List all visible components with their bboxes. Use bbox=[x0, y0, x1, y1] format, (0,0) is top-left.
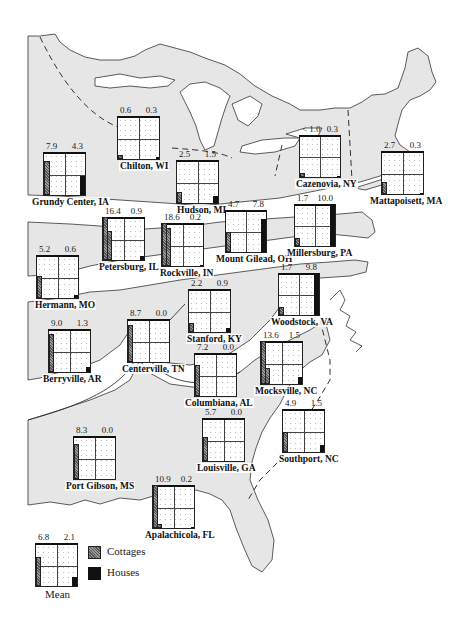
house-bar bbox=[191, 527, 194, 528]
station-label: Southport, NC bbox=[278, 454, 340, 464]
cottage-bar bbox=[295, 238, 300, 246]
station-label: Port Gibson, MS bbox=[65, 481, 135, 491]
house-value: 0.0 bbox=[102, 425, 113, 435]
cottage-value: 8.7 bbox=[130, 308, 141, 318]
house-bar bbox=[314, 273, 319, 315]
house-bar bbox=[330, 204, 335, 246]
cottage-value: 0.6 bbox=[120, 105, 131, 115]
cottage-value: 10.9 bbox=[155, 474, 171, 484]
station-label: Columbiana, AL bbox=[184, 398, 254, 408]
cottage-bar bbox=[177, 192, 182, 203]
house-bar bbox=[86, 367, 90, 372]
house-value: 9.8 bbox=[306, 262, 317, 272]
cottage-bar bbox=[203, 437, 208, 461]
house-value: 1.5 bbox=[205, 149, 216, 159]
house-value: 1.3 bbox=[77, 318, 88, 328]
house-value: 0.3 bbox=[146, 105, 157, 115]
house-value: 7.8 bbox=[253, 199, 264, 209]
cottage-value: 7.2 bbox=[197, 342, 208, 352]
house-value: 0.6 bbox=[65, 244, 76, 254]
cottage-bar bbox=[74, 444, 79, 479]
chart-box: 8.7 0.0 bbox=[127, 320, 170, 363]
station-label: Millersburg, PA bbox=[286, 248, 353, 258]
chart-box: 1.7 10.0 bbox=[294, 205, 336, 247]
station-label: Hermann, MO bbox=[34, 300, 96, 310]
chart-box: 6.8 2.1 bbox=[35, 544, 78, 587]
station-label: Chilton, WI bbox=[119, 161, 169, 171]
cottage-bar bbox=[36, 557, 41, 586]
station-label: Centerville, TN bbox=[121, 364, 186, 374]
cottage-value: 5.7 bbox=[205, 407, 216, 417]
house-value: 4.3 bbox=[72, 141, 83, 151]
station-label: Apalachicola, FL bbox=[144, 530, 216, 540]
cottage-value: 2.2 bbox=[191, 278, 202, 288]
house-bar bbox=[420, 193, 423, 194]
station-label: Mocksville, NC bbox=[254, 386, 318, 396]
cottage-bar bbox=[37, 276, 42, 298]
cottage-bar bbox=[118, 155, 123, 159]
mean-label: Mean bbox=[45, 588, 70, 600]
cottage-value: 2.5 bbox=[179, 149, 190, 159]
chart-box: 4.9 1.5 bbox=[282, 410, 325, 453]
cottage-bar bbox=[153, 485, 158, 528]
cottage-value: < 1.0 bbox=[302, 124, 321, 134]
cottage-bar-overflow bbox=[107, 231, 112, 260]
chart-box: 2.2 0.9 bbox=[188, 290, 231, 333]
station-label: Hudson, MI bbox=[176, 205, 227, 215]
cottage-bar bbox=[128, 325, 133, 362]
house-value: 10.0 bbox=[317, 193, 333, 203]
cottage-bar bbox=[279, 307, 284, 315]
chart-box: 13.6 1.5 bbox=[260, 342, 303, 385]
station-label: Mattapoisett, MA bbox=[369, 196, 443, 206]
cottage-value: 7.9 bbox=[46, 141, 57, 151]
cottages-swatch-icon bbox=[88, 546, 101, 559]
cottage-bar bbox=[226, 232, 231, 252]
station-label: Rockville, IN bbox=[159, 268, 214, 278]
cottage-bar bbox=[382, 182, 387, 194]
house-bar bbox=[72, 577, 77, 586]
house-value: 0.2 bbox=[181, 474, 192, 484]
mean-house-value: 2.1 bbox=[64, 532, 75, 542]
house-value: 0.3 bbox=[410, 140, 421, 150]
cottage-bar-overflow bbox=[166, 228, 171, 266]
cottage-value: 16.4 bbox=[105, 206, 121, 216]
cottage-value: 1.7 bbox=[297, 193, 308, 203]
houses-legend-label: Houses bbox=[107, 566, 139, 578]
house-value: 0.3 bbox=[327, 124, 338, 134]
house-bar bbox=[226, 328, 230, 332]
cottage-value: 13.6 bbox=[263, 330, 279, 340]
chart-box: 5.7 0.0 bbox=[202, 419, 245, 462]
chart-box: 7.9 4.3 bbox=[43, 153, 86, 196]
house-bar bbox=[337, 176, 340, 177]
house-value: 0.9 bbox=[217, 278, 228, 288]
cottage-value: 4.7 bbox=[228, 199, 239, 209]
cottage-value: 8.3 bbox=[76, 425, 87, 435]
cottage-value: 9.0 bbox=[51, 318, 62, 328]
cottage-bar bbox=[49, 334, 54, 372]
chart-box: 7.2 0.0 bbox=[194, 354, 237, 397]
station-label: Stanford, KY bbox=[186, 334, 243, 344]
house-value: 0.0 bbox=[223, 342, 234, 352]
cottage-bar-overflow bbox=[157, 524, 162, 528]
cottages-legend-label: Cottages bbox=[107, 545, 146, 557]
chart-box: 0.6 0.3 bbox=[117, 117, 160, 160]
chart-box: < 1.0 0.3 bbox=[299, 136, 341, 178]
station-label: Grundy Center, IA bbox=[31, 197, 110, 207]
house-value: 0.0 bbox=[231, 407, 242, 417]
house-value: 1.5 bbox=[289, 330, 300, 340]
chart-box: 2.7 0.3 bbox=[381, 152, 424, 195]
cottage-bar bbox=[189, 323, 194, 332]
cottage-value: 5.2 bbox=[39, 244, 50, 254]
station-label: Louisville, GA bbox=[196, 463, 257, 473]
chart-box: 4.7 7.8 bbox=[225, 211, 267, 253]
cottage-bar bbox=[44, 161, 50, 195]
chart-box: 9.0 1.3 bbox=[48, 330, 91, 373]
houses-swatch-icon bbox=[88, 567, 101, 580]
station-label: Woodstock, VA bbox=[270, 317, 334, 327]
house-bar bbox=[200, 265, 203, 266]
house-bar bbox=[74, 295, 78, 298]
house-bar bbox=[320, 445, 324, 452]
mean-cottage-value: 6.8 bbox=[38, 532, 49, 542]
house-bar bbox=[140, 256, 144, 260]
cottage-value: 2.7 bbox=[384, 140, 395, 150]
